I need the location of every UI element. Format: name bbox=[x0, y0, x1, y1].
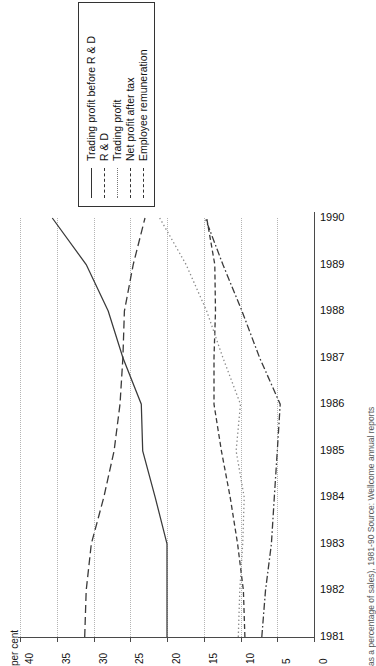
legend-label: Trading profit bbox=[112, 100, 123, 161]
legend-swatch-dashed-icon bbox=[104, 168, 105, 198]
year-label-1985: 1985 bbox=[320, 444, 344, 456]
legend-items: Trading profit before R & DR & DTrading … bbox=[79, 3, 156, 208]
series-line-dashed bbox=[207, 218, 245, 637]
legend-label: Employee remuneration bbox=[138, 50, 149, 161]
legend-box: Trading profit before R & DR & DTrading … bbox=[78, 2, 155, 207]
value-tick-label-5: 5 bbox=[281, 658, 292, 664]
series-lines bbox=[20, 218, 320, 643]
year-label-1983: 1983 bbox=[320, 537, 344, 549]
legend-swatch-dotted-icon bbox=[117, 168, 118, 198]
legend-item-2: Trading profit bbox=[111, 11, 123, 198]
legend-swatch-solid-icon bbox=[91, 168, 92, 198]
value-tick-label-35: 35 bbox=[61, 653, 72, 664]
year-label-1982: 1982 bbox=[320, 583, 344, 595]
legend-label: R & D bbox=[99, 133, 110, 161]
series-line-dotted bbox=[160, 218, 245, 637]
series-line-solid bbox=[52, 218, 167, 637]
legend-item-4: Employee remuneration bbox=[137, 11, 149, 198]
year-label-1981: 1981 bbox=[320, 630, 344, 642]
value-tick-label-30: 30 bbox=[98, 653, 109, 664]
legend-item-0: Trading profit before R & D bbox=[85, 11, 97, 198]
legend-item-3: Net profit after tax bbox=[124, 11, 136, 198]
value-tick-label-10: 10 bbox=[245, 653, 256, 664]
value-tick-label-15: 15 bbox=[208, 653, 219, 664]
plot-area bbox=[20, 218, 314, 637]
year-label-1986: 1986 bbox=[320, 397, 344, 409]
year-label-1988: 1988 bbox=[320, 304, 344, 316]
series-line-dash-dot bbox=[205, 218, 280, 637]
figure-caption: as a percentage of sales), 1981-90 Sourc… bbox=[366, 407, 376, 666]
value-tick-label-25: 25 bbox=[134, 653, 145, 664]
year-label-1990: 1990 bbox=[320, 211, 344, 223]
legend-swatch-dash-dot-icon bbox=[130, 168, 131, 198]
value-tick-label-40: 40 bbox=[24, 653, 35, 664]
year-label-1989: 1989 bbox=[320, 258, 344, 270]
legend-item-1: R & D bbox=[98, 11, 110, 198]
legend-label: Trading profit before R & D bbox=[86, 36, 97, 161]
legend-label: Net profit after tax bbox=[125, 78, 136, 161]
value-tick-label-20: 20 bbox=[171, 653, 182, 664]
value-tick-label-0: 0 bbox=[318, 658, 329, 664]
legend-swatch-long-dash-icon bbox=[143, 168, 144, 198]
value-axis-title: per cent bbox=[9, 630, 20, 666]
year-label-1984: 1984 bbox=[320, 490, 344, 502]
year-label-1987: 1987 bbox=[320, 351, 344, 363]
